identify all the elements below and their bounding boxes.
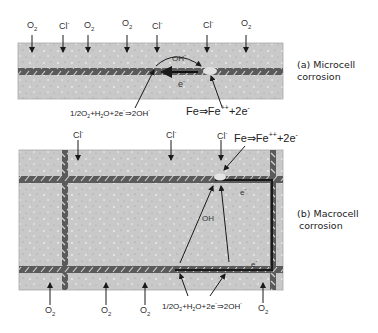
microcell-cathode-equation: 1/2O2+H2O+2e-⇒2OH- <box>70 107 150 119</box>
microcell-o2-label: O2 <box>241 18 251 32</box>
microcell-rebar <box>18 68 283 75</box>
macrocell-caption: (b) Macrocell corrosion <box>297 208 359 232</box>
macrocell-caption-line2: corrosion <box>297 220 359 232</box>
microcell-caption-line2: corrosion <box>297 71 355 83</box>
microcell-o2-label: O2 <box>84 20 94 34</box>
microcell-anode-pit <box>203 67 217 75</box>
macrocell-cathode-equation: 1/2O2+H2O+2e-⇒2OH- <box>162 300 242 312</box>
microcell-cl-label: Cl- <box>59 18 70 31</box>
macrocell-cl-label: Cl- <box>166 127 177 140</box>
microcell-cl-label: Cl- <box>203 17 214 30</box>
microcell-oh-label: OH- <box>172 50 186 64</box>
macrocell-o2-label: O2 <box>45 305 55 319</box>
macrocell-anode-equation: Fe⇒Fe+++2e- <box>234 131 298 145</box>
macrocell-o2-label: O2 <box>101 305 111 319</box>
microcell-caption-line1: (a) Microcell <box>297 59 355 71</box>
macrocell-caption-line1: (b) Macrocell <box>297 208 359 220</box>
microcell-caption: (a) Microcell corrosion <box>297 59 355 83</box>
macrocell-cl-label: Cl- <box>217 128 228 141</box>
macrocell-electron-label-bottom: e- <box>251 256 257 270</box>
macrocell-anode-pit <box>214 174 226 181</box>
macrocell-oh-label: OH <box>202 214 214 224</box>
microcell-cl-label: Cl- <box>152 18 163 31</box>
macrocell-o2-label: O2 <box>258 303 268 317</box>
microcell-o2-label: O2 <box>27 20 37 34</box>
macrocell-electron-label-top: e- <box>240 184 246 198</box>
macrocell-o2-label: O2 <box>140 305 150 319</box>
microcell-anode-equation: Fe⇒Fe+++2e- <box>186 104 250 118</box>
microcell-o2-label: O2 <box>122 18 132 32</box>
macrocell-cl-label: Cl- <box>73 127 84 140</box>
corrosion-diagram <box>0 0 378 333</box>
microcell-electron-label: e- <box>178 76 185 89</box>
